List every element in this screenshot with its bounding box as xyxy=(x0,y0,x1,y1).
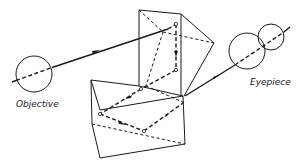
objective-label: Objective xyxy=(16,99,59,109)
incoming-ray xyxy=(12,29,168,82)
eyepiece-lenses xyxy=(229,24,284,69)
objective-lens xyxy=(16,56,52,92)
eyepiece-label: Eyepiece xyxy=(250,77,291,87)
ray-arrow-icon xyxy=(164,112,170,117)
down-arrow-icon xyxy=(174,51,178,57)
ray-arrow-icon xyxy=(125,95,132,99)
porro-prism-diagram: Objective Eyepiece xyxy=(0,0,298,167)
ray-arrow-icon xyxy=(213,75,219,79)
lower-prism xyxy=(91,80,185,158)
internal-ray-path xyxy=(98,22,185,132)
